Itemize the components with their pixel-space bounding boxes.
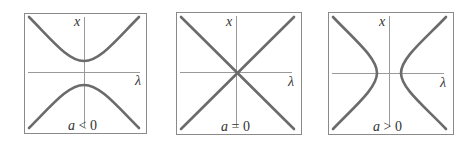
bifurcation-diagram: x λ a < 0 x λ a = 0 x λ a > 0: [0, 0, 472, 144]
lambda-axis-label: λ: [287, 74, 294, 89]
panel-a-positive: x λ a > 0: [329, 13, 454, 135]
lambda-axis-label: λ: [439, 75, 446, 90]
x-axis-label: x: [73, 14, 81, 29]
panel-a-zero: x λ a = 0: [177, 13, 302, 135]
x-axis-label: x: [378, 14, 386, 29]
panel-caption: a < 0: [68, 118, 97, 133]
panel-a-negative: x λ a < 0: [25, 14, 147, 134]
lambda-axis-label: λ: [134, 73, 141, 88]
panel-caption: a = 0: [221, 119, 250, 134]
x-axis-label: x: [225, 14, 233, 29]
panel-caption: a > 0: [373, 119, 402, 134]
